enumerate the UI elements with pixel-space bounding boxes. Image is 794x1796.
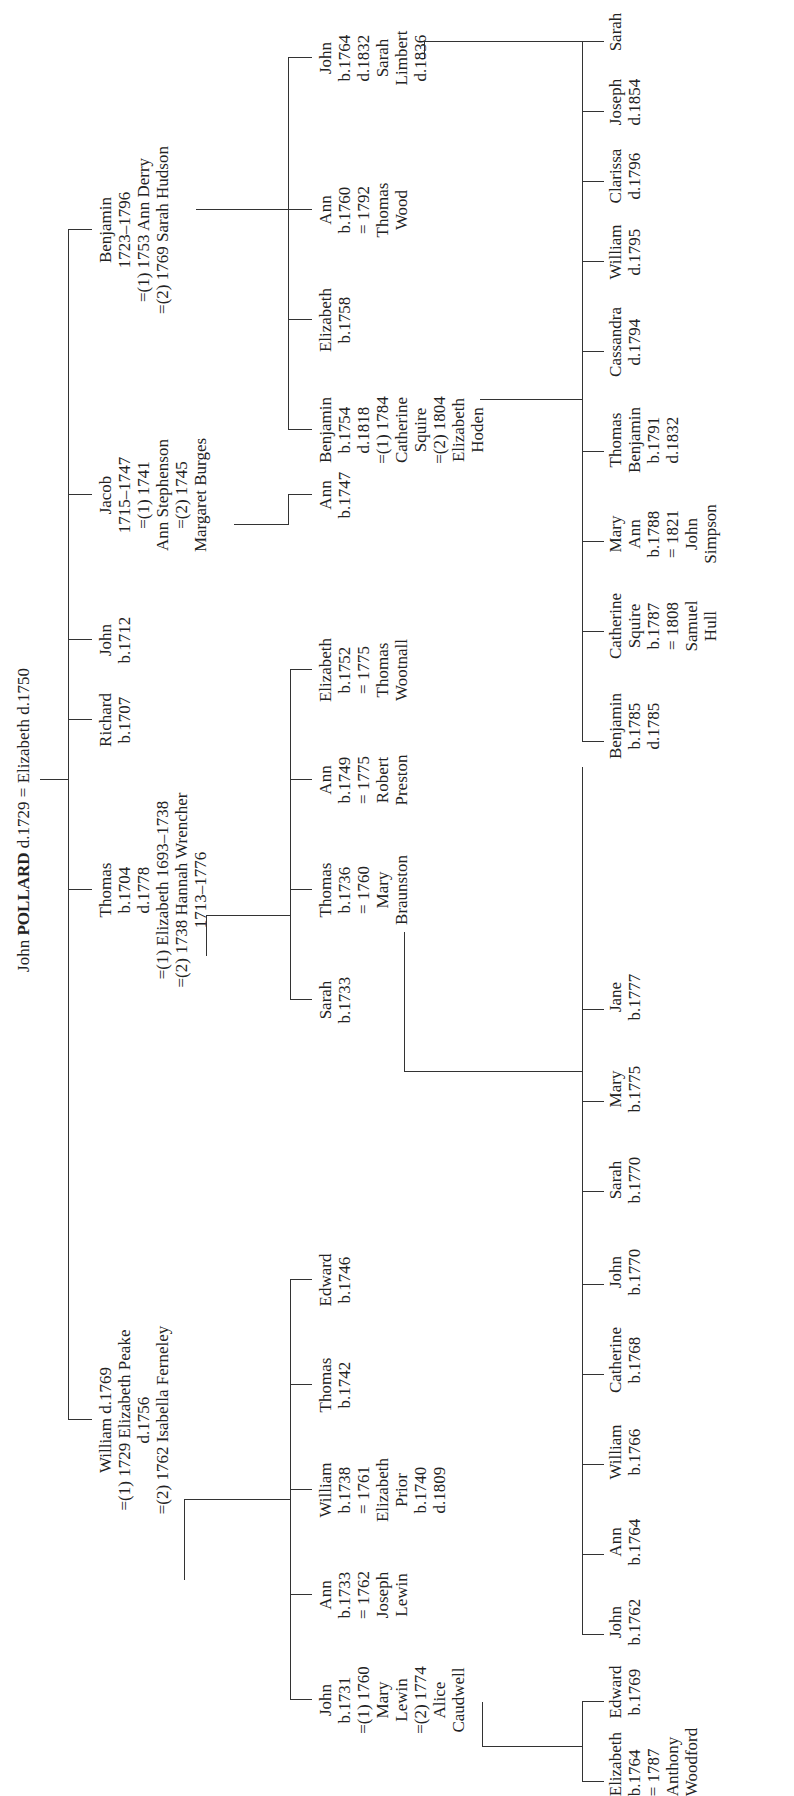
- connector: [290, 1489, 312, 1490]
- connector: [582, 541, 604, 542]
- person-text-line: =(1) 1784: [373, 396, 392, 464]
- person-text-line: = 1808: [663, 593, 682, 659]
- person-text-line: Hoden: [468, 396, 487, 464]
- person-text-line: John: [606, 1249, 625, 1296]
- connector: [582, 1009, 604, 1010]
- person-benjamin-1754: Benjaminb.1754d.1818=(1) 1784CatherineSq…: [316, 396, 487, 464]
- connector: [424, 42, 425, 58]
- person-tt-jane: Janeb.1777: [606, 974, 644, 1021]
- gen1-tick: [68, 229, 92, 230]
- person-text-line: Ann: [316, 472, 335, 519]
- person-text-line: John: [682, 504, 701, 564]
- person-text-line: =(2) 1774: [411, 1666, 430, 1734]
- person-tt-ann: Annb.1764: [606, 1519, 644, 1566]
- person-text-line: b.1770: [625, 1157, 644, 1204]
- person-bb-catherine: CatherineSquireb.1787= 1808SamuelHull: [606, 593, 720, 659]
- person-text-line: Sarah: [606, 13, 625, 52]
- person-text-line: Sarah: [373, 31, 392, 86]
- connector: [582, 1374, 604, 1375]
- person-thomas-ann: Annb.1749= 1775RobertPreston: [316, 755, 411, 806]
- person-text-line: b.1764: [335, 31, 354, 86]
- person-text-line: b.1733: [335, 1571, 354, 1619]
- root-couple-title: John POLLARD d.1729 = Elizabeth d.1750: [14, 668, 34, 972]
- person-text-line: b.1788: [644, 504, 663, 564]
- person-text-line: Elizabeth: [449, 396, 468, 464]
- person-text-line: Sarah: [316, 977, 335, 1024]
- person-jacob: Jacob1715–1747=(1) 1741Ann Stephenson=(2…: [96, 438, 210, 552]
- connector: [582, 351, 604, 352]
- person-edward-1769: Edwardb.1769: [606, 1666, 644, 1719]
- person-text-line: Catherine: [606, 593, 625, 659]
- connector: [290, 669, 312, 670]
- person-text-line: d.1794: [625, 307, 644, 377]
- person-text-line: Lewin: [392, 1571, 411, 1619]
- person-elizabeth-1764: Elizabethb.1764= 1787AnthonyWoodford: [606, 1728, 701, 1796]
- person-text-line: Catherine: [392, 396, 411, 464]
- person-text-line: Ann: [316, 755, 335, 806]
- person-text-line: Benjamin: [606, 693, 625, 759]
- connector: [290, 1280, 291, 1700]
- person-text-line: b.1752: [335, 638, 354, 702]
- person-text-line: b.1777: [625, 974, 644, 1021]
- person-text-line: b.1764: [625, 1728, 644, 1796]
- person-text-line: Thomas: [373, 183, 392, 238]
- connector: [582, 631, 604, 632]
- person-text-line: 1715–1747: [115, 438, 134, 552]
- connector: [582, 111, 604, 112]
- person-text-line: John: [316, 31, 335, 86]
- root-surname: POLLARD: [14, 852, 33, 935]
- connector: [582, 451, 604, 452]
- person-william-ann: Annb.1733= 1762JosephLewin: [316, 1571, 411, 1619]
- person-text-line: Wood: [392, 183, 411, 238]
- person-text-line: Mary: [606, 504, 625, 564]
- connector: [582, 1101, 604, 1102]
- person-text-line: d.1778: [134, 792, 153, 987]
- gen1-tick: [68, 1419, 92, 1420]
- person-text-line: = 1775: [354, 755, 373, 806]
- person-text-line: d.1836: [411, 31, 430, 86]
- person-text-line: Elizabeth: [606, 1728, 625, 1796]
- connector: [290, 1594, 312, 1595]
- person-text-line: Benjamin: [316, 396, 335, 464]
- person-text-line: =(2) 1745: [172, 438, 191, 552]
- person-text-line: d.1756: [134, 1326, 153, 1515]
- connector: [582, 181, 604, 182]
- person-bb-mary-ann: MaryAnnb.1788= 1821JohnSimpson: [606, 504, 720, 564]
- person-text-line: 1713–1776: [191, 792, 210, 987]
- person-text-line: 1723–1796: [115, 146, 134, 314]
- person-text-line: b.1749: [335, 755, 354, 806]
- person-text-line: Ann: [316, 183, 335, 238]
- connector: [582, 1781, 604, 1782]
- person-text-line: b.1791: [644, 407, 663, 473]
- person-text-line: Thomas: [606, 407, 625, 473]
- person-text-line: Joseph: [373, 1571, 392, 1619]
- person-text-line: Caudwell: [449, 1666, 468, 1734]
- person-bb-thomas-benjamin: ThomasBenjaminb.1791d.1832: [606, 407, 682, 473]
- person-text-line: = 1787: [644, 1728, 663, 1796]
- person-text-line: Ann: [316, 1571, 335, 1619]
- person-william-thomas: Thomasb.1742: [316, 1358, 354, 1413]
- person-text-line: Mary: [373, 855, 392, 925]
- connector: [290, 779, 312, 780]
- connector: [290, 1699, 312, 1700]
- person-text-line: Ann: [625, 504, 644, 564]
- person-text-line: Anthony: [663, 1728, 682, 1796]
- person-john-1712: Johnb.1712: [96, 617, 134, 664]
- person-bb-sarah: Sarah: [606, 13, 625, 52]
- person-thomas-elizabeth: Elizabethb.1752= 1775ThomasWootnall: [316, 638, 411, 702]
- person-text-line: b.1712: [115, 617, 134, 664]
- person-tt-catherine: Catherineb.1768: [606, 1327, 644, 1393]
- person-tt-john-1770: Johnb.1770: [606, 1249, 644, 1296]
- person-text-line: Catherine: [606, 1327, 625, 1393]
- person-text-line: Woodford: [682, 1728, 701, 1796]
- person-tt-william: Williamb.1766: [606, 1424, 644, 1479]
- person-text-line: Sarah: [606, 1157, 625, 1204]
- person-text-line: John: [96, 617, 115, 664]
- connector: [404, 932, 405, 1072]
- person-text-line: Elizabeth: [373, 1458, 392, 1522]
- person-text-line: John: [316, 1666, 335, 1734]
- connector: [582, 42, 583, 742]
- connector: [582, 261, 604, 262]
- person-text-line: Simpson: [701, 504, 720, 564]
